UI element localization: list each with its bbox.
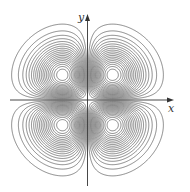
x-axis-label: x — [168, 102, 174, 115]
y-axis-label: y — [78, 11, 84, 24]
contour-plot — [0, 0, 190, 192]
y-axis-arrow-icon — [85, 14, 90, 21]
